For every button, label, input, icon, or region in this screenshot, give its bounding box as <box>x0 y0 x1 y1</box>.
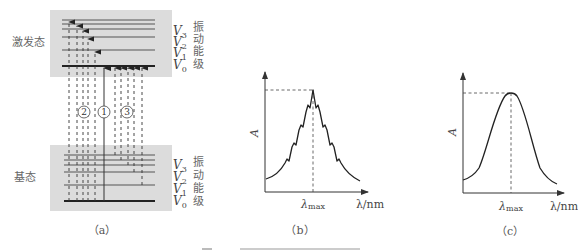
spectrum-curve-smooth <box>463 93 557 184</box>
ground-vibrational-label: 振 动 能 级 <box>193 155 204 208</box>
peak-wavelength-label: λmax <box>498 200 523 213</box>
ground-level-labels: V3 V2 V1 V0 <box>173 158 187 210</box>
x-axis-label: λ/nm <box>356 198 385 211</box>
excited-state-label: 激发态 <box>12 35 45 49</box>
figure-canvas: 2 1 3 激发态 基态 V3 V2 V1 V0 振 动 能 级 V3 V2 V… <box>0 0 578 250</box>
ground-state-label: 基态 <box>14 171 36 184</box>
svg-text:能: 能 <box>193 44 204 58</box>
peak-wavelength-label: λmax <box>300 198 325 211</box>
transition-label-2: 2 <box>81 107 87 117</box>
panel-b-label: （b） <box>285 224 314 237</box>
transition-labels: 2 1 3 <box>78 106 133 118</box>
panel-a-energy-diagram: 2 1 3 激发态 基态 V3 V2 V1 V0 振 动 能 级 V3 V2 V… <box>12 10 204 237</box>
svg-text:级: 级 <box>193 195 204 208</box>
y-axis-label: A <box>248 129 261 138</box>
y-axis-label: A <box>446 128 459 137</box>
x-axis-label: λ/nm <box>550 200 578 213</box>
svg-text:振: 振 <box>193 155 204 169</box>
panel-b-chart: A λmax λ/nm （b） <box>248 72 385 237</box>
excited-vibrational-label: 振 动 能 级 <box>193 20 204 71</box>
panel-a-label: （a） <box>88 224 117 237</box>
excited-level-labels: V3 V2 V1 V0 <box>173 24 187 74</box>
transition-label-3: 3 <box>124 107 130 117</box>
svg-text:振: 振 <box>193 20 204 34</box>
svg-text:动: 动 <box>193 169 204 182</box>
figure-caption-clipped <box>200 246 400 250</box>
svg-text:能: 能 <box>193 181 204 195</box>
caption-sliver <box>200 246 400 250</box>
svg-text:级: 级 <box>193 58 204 71</box>
panel-c-chart: A λmax λ/nm （c） <box>446 73 578 238</box>
transition-label-1: 1 <box>101 107 107 117</box>
panel-c-label: （c） <box>496 225 524 238</box>
